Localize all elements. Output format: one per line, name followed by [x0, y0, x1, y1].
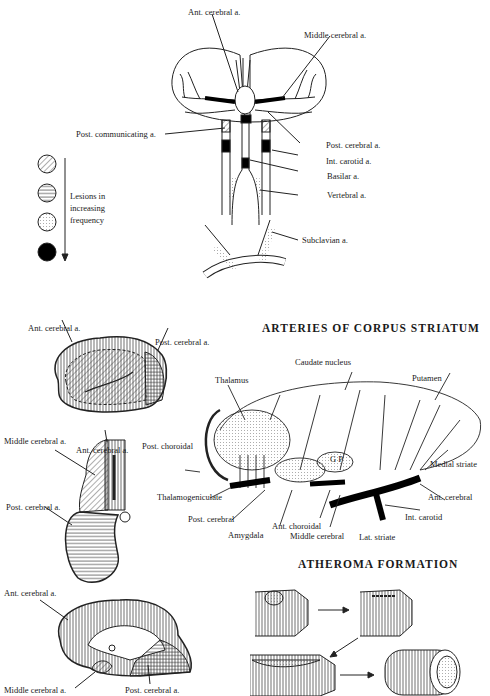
corpus-striatum-title: ARTERIES OF CORPUS STRIATUM [262, 322, 480, 334]
label-int-carotid: Int. carotid a. [326, 157, 371, 166]
label-medial-ant-cerebral: Ant. cerebral a. [4, 589, 56, 598]
label-coronal-ant-cerebral: Ant. cerebral a. [76, 446, 128, 455]
label-putamen: Putamen [412, 374, 442, 383]
label-thalamus: Thalamus [215, 376, 249, 385]
label-post-cerebral: Post. cerebral a. [326, 141, 380, 150]
label-ant-choroidal: Ant. choroidal [272, 522, 321, 531]
label-medial-post-cerebral: Post. cerebral a. [125, 686, 179, 695]
label-lateral-ant-cerebral: Ant. cerebral a. [28, 324, 80, 333]
atheroma-title: ATHEROMA FORMATION [298, 558, 458, 570]
label-basilar: Basilar a. [327, 172, 359, 181]
label-coronal-post-cerebral: Post. cerebral a. [6, 503, 60, 512]
label-coronal-middle-cerebral: Middle cerebral a. [4, 437, 66, 446]
label-post-choroidal: Post. choroidal [142, 442, 193, 451]
label-ant-cerebral-striatum: Ant. cerebral [428, 493, 472, 502]
label-vertebral: Vertebral a. [327, 191, 366, 200]
label-ant-cerebral: Ant. cerebral a. [188, 8, 240, 17]
legend-diagonal-hatch-icon [38, 155, 56, 173]
legend-horizontal-lines-icon [38, 184, 56, 202]
label-post-communicating: Post. communicating a. [76, 130, 156, 139]
label-caudate-nucleus: Caudate nucleus [295, 358, 351, 367]
legend-stippled-icon [38, 213, 56, 231]
label-lateral-post-cerebral: Post. cerebral a. [155, 338, 209, 347]
lesion-legend [38, 155, 68, 261]
label-gp: G P [330, 455, 343, 464]
corpus-striatum-diagram [185, 372, 481, 527]
label-medial-striate: Medial striate [430, 460, 477, 469]
label-medial-middle-cerebral: Middle cerebral a. [4, 686, 66, 695]
label-post-cerebral-striatum: Post. cerebral [188, 515, 234, 524]
label-middle-cerebral: Middle cerebral a. [304, 31, 366, 40]
label-lat-striate: Lat. striate [359, 533, 395, 542]
lateral-hemisphere-diagram [55, 320, 168, 412]
label-amygdala: Amygdala [228, 531, 263, 540]
atheroma-diagram [250, 590, 460, 696]
label-int-carotid-striatum: Int. carotid [405, 513, 442, 522]
label-subclavian: Subclavian a. [302, 236, 348, 245]
label-thalamogeniculate: Thalamogeniculate [157, 493, 222, 502]
illustration-canvas [0, 0, 490, 696]
label-middle-cerebral-striatum: Middle cerebral [290, 532, 344, 541]
legend-caption: Lesions in increasing frequency [70, 190, 105, 226]
medial-hemisphere-diagram [40, 600, 191, 688]
legend-solid-black-icon [38, 243, 56, 261]
